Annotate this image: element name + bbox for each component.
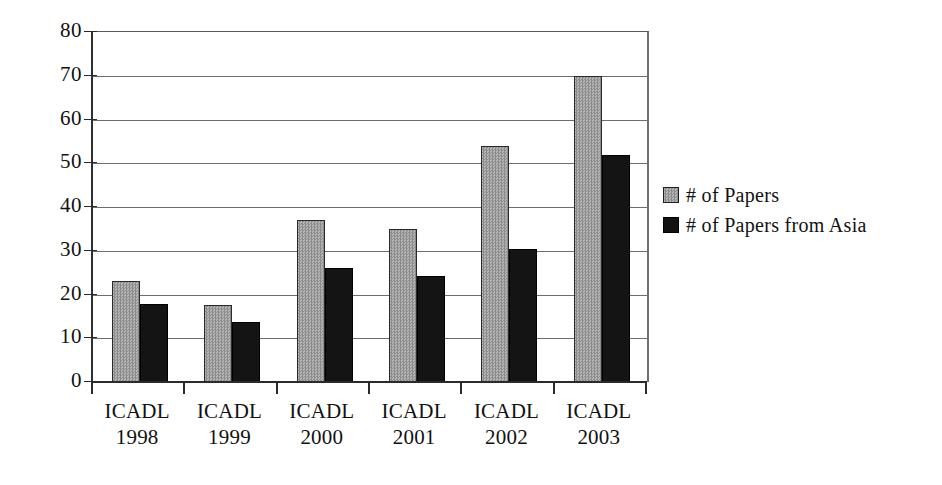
chart-legend: # of Papers# of Papers from Asia — [663, 180, 935, 240]
gridline — [93, 76, 647, 77]
y-axis-tick-label: 70 — [38, 64, 82, 85]
plot-area — [91, 31, 649, 382]
bar-asia-2002 — [509, 249, 537, 382]
x-axis-tick-mark — [91, 381, 93, 394]
legend-item: # of Papers from Asia — [663, 210, 935, 240]
bar-asia-2000 — [325, 268, 353, 382]
y-axis-tick-labels: 01020304050607080 — [20, 0, 82, 485]
x-axis-tick-mark — [460, 381, 462, 394]
y-axis-tick-mark — [84, 250, 97, 251]
bar-papers-1998 — [112, 281, 140, 382]
y-axis-tick-mark — [84, 119, 97, 120]
gridline — [93, 295, 647, 296]
gridline — [93, 338, 647, 339]
gridline — [93, 207, 647, 208]
y-axis-tick-label: 30 — [38, 239, 82, 260]
bar-papers-2001 — [389, 229, 417, 382]
x-axis-tick-mark — [368, 381, 370, 394]
x-axis-category-label: ICADL2003 — [539, 398, 659, 450]
gray-hatch-swatch — [663, 187, 679, 203]
black-swatch — [663, 217, 679, 233]
y-axis-tick-mark — [84, 206, 97, 207]
bar-papers-2000 — [297, 220, 325, 382]
bar-asia-1998 — [140, 304, 168, 382]
x-axis-tick-mark — [183, 381, 185, 394]
y-axis-tick-mark — [84, 162, 97, 163]
category-name: ICADL — [539, 398, 659, 424]
x-axis-tick-mark — [645, 381, 647, 394]
y-axis-tick-label: 0 — [38, 370, 82, 391]
category-year: 2003 — [539, 424, 659, 450]
gridline — [93, 120, 647, 121]
y-axis-tick-mark — [84, 75, 97, 76]
y-axis-tick-mark — [84, 381, 97, 382]
bar-asia-2003 — [602, 155, 630, 383]
y-axis-tick-mark — [84, 31, 97, 32]
y-axis-tick-label: 10 — [38, 326, 82, 347]
bar-asia-2001 — [417, 276, 445, 382]
y-axis-tick-label: 50 — [38, 151, 82, 172]
y-axis-tick-label: 80 — [38, 20, 82, 41]
bar-chart: 01020304050607080 ICADL1998ICADL1999ICAD… — [0, 0, 942, 485]
y-axis-tick-label: 60 — [38, 108, 82, 129]
bar-papers-2003 — [574, 76, 602, 382]
bar-asia-1999 — [232, 322, 260, 382]
y-axis-tick-label: 20 — [38, 283, 82, 304]
gridline — [93, 251, 647, 252]
legend-item-label: # of Papers from Asia — [686, 215, 867, 235]
x-axis-tick-mark — [276, 381, 278, 394]
bar-papers-1999 — [204, 305, 232, 382]
legend-item: # of Papers — [663, 180, 935, 210]
gridline — [93, 163, 647, 164]
bar-papers-2002 — [481, 146, 509, 382]
y-axis-tick-label: 40 — [38, 195, 82, 216]
x-axis-tick-mark — [553, 381, 555, 394]
y-axis-tick-mark — [84, 294, 97, 295]
legend-item-label: # of Papers — [686, 185, 779, 205]
y-axis-tick-mark — [84, 337, 97, 338]
